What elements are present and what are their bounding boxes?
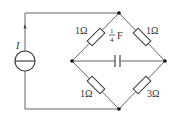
source-label: I: [15, 40, 20, 51]
label-capacitor: 1 4 F: [109, 27, 123, 44]
capacitor-icon: [115, 55, 120, 67]
svg-text:F: F: [117, 30, 123, 41]
label-r-bottom-right: 3Ω: [147, 88, 159, 99]
svg-text:1: 1: [110, 27, 114, 35]
wire-bottom: [25, 71, 119, 109]
arrow-up-icon: [24, 24, 27, 29]
wire-top: [25, 13, 119, 51]
svg-text:4: 4: [110, 36, 114, 44]
node-bottom: [117, 107, 121, 111]
resistor-top-left: [87, 28, 105, 46]
circuit-diagram: I 1Ω 1Ω 1Ω 3Ω 1 4 F: [0, 0, 176, 121]
node-top: [117, 11, 121, 15]
label-r-top-right: 1Ω: [146, 25, 158, 36]
label-r-top-left: 1Ω: [75, 25, 87, 36]
label-r-bottom-left: 1Ω: [80, 88, 92, 99]
node-right: [163, 59, 167, 63]
node-left: [70, 59, 74, 63]
